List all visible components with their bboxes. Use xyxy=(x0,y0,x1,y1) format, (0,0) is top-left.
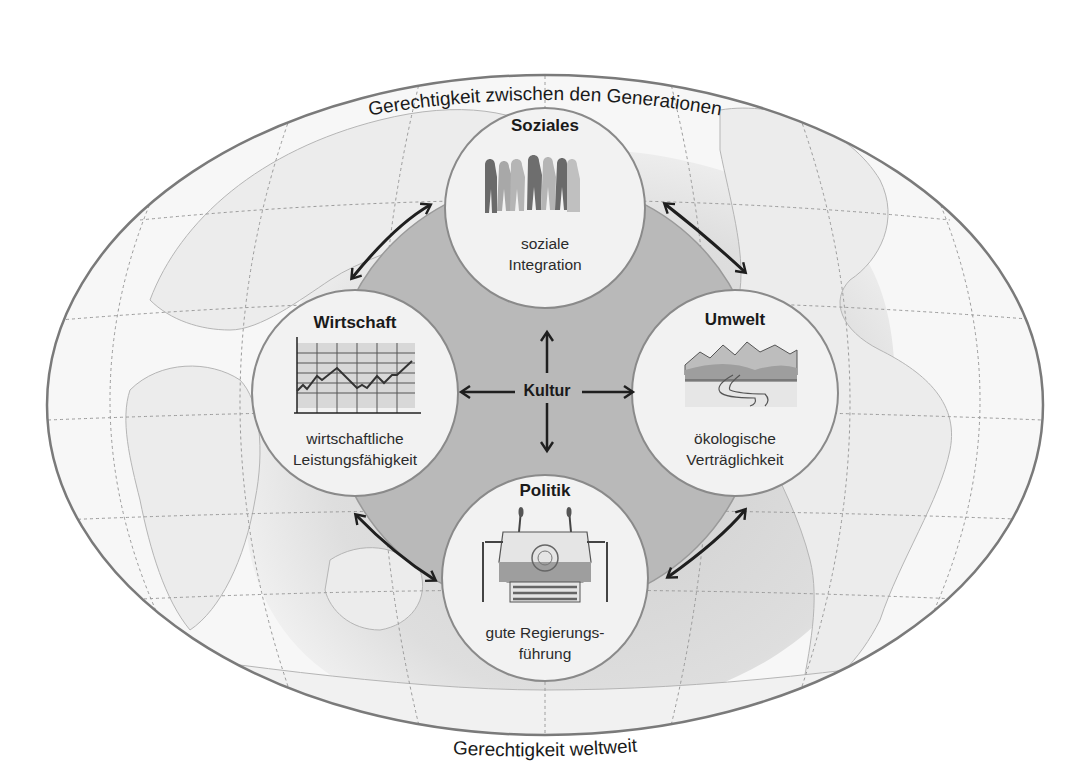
node-subtitle-line: Integration xyxy=(470,254,620,275)
node-subtitle-wirtschaft: wirtschaftliche Leistungsfähigkeit xyxy=(270,428,440,470)
line-chart-icon xyxy=(294,337,421,413)
node-subtitle-line: wirtschaftliche xyxy=(270,428,440,449)
node-subtitle-line: gute Regierungs- xyxy=(470,622,620,643)
diagram-canvas: Gerechtigkeit zwischen den Generationen … xyxy=(0,0,1092,765)
node-subtitle-politik: gute Regierungs- führung xyxy=(470,622,620,664)
node-subtitle-line: soziale xyxy=(470,233,620,254)
arc-label-bottom: Gerechtigkeit weltweit xyxy=(453,735,639,761)
node-title-wirtschaft: Wirtschaft xyxy=(290,313,420,333)
node-subtitle-line: Leistungsfähigkeit xyxy=(270,449,440,470)
node-title-politik: Politik xyxy=(495,481,595,501)
node-subtitle-line: ökologische xyxy=(660,428,810,449)
node-subtitle-line: Verträglichkeit xyxy=(660,449,810,470)
node-title-umwelt: Umwelt xyxy=(680,310,790,330)
node-title-soziales: Soziales xyxy=(495,116,595,136)
node-subtitle-umwelt: ökologische Verträglichkeit xyxy=(660,428,810,470)
node-subtitle-soziales: soziale Integration xyxy=(470,233,620,275)
node-subtitle-line: führung xyxy=(470,643,620,664)
center-label-kultur: Kultur xyxy=(510,382,584,400)
